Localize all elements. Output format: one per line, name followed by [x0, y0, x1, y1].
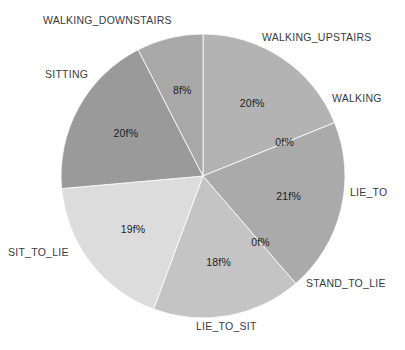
pie-slice-percentage: 18f% [206, 256, 231, 268]
pie-slice-group [61, 34, 345, 318]
pie-slice-percentage: 0f% [275, 136, 294, 148]
pie-label-stand-to-lie: STAND_TO_LIE [306, 277, 386, 289]
pie-chart-canvas: 20f%21f%18f%19f%20f%8f%0f%0f% [0, 0, 405, 350]
pie-slice-percentage: 8f% [173, 84, 192, 96]
pie-label-lie-to-sit: LIE_TO_SIT [196, 320, 257, 332]
pie-label-sitting: SITTING [45, 68, 88, 80]
pie-label-walking: WALKING [332, 92, 382, 104]
pie-chart-figure: 20f%21f%18f%19f%20f%8f%0f%0f% WALKING_DO… [0, 0, 405, 350]
pie-slice-percentage: 21f% [276, 190, 301, 202]
pie-slice-percentage: 20f% [240, 97, 265, 109]
pie-label-walking-upstairs: WALKING_UPSTAIRS [262, 31, 372, 43]
pie-slice-percentage: 0f% [251, 236, 270, 248]
pie-slice-percentage: 20f% [114, 127, 139, 139]
pie-label-sit-to-lie: SIT_TO_LIE [8, 246, 69, 258]
pie-slice-percentage: 19f% [121, 223, 146, 235]
pie-label-walking-downstairs: WALKING_DOWNSTAIRS [43, 14, 172, 26]
pie-label-lie-to: LIE_TO [350, 186, 388, 198]
